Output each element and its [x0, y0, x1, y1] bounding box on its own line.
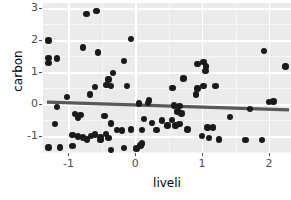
data-point: [178, 110, 184, 116]
y-tick-mark: [39, 40, 42, 41]
data-point: [270, 98, 276, 104]
regression-line: [43, 3, 291, 153]
data-point: [75, 115, 81, 121]
data-point: [164, 122, 170, 128]
data-point: [57, 144, 63, 150]
y-tick-label: 2: [20, 34, 38, 45]
x-axis-title: liveli: [43, 176, 291, 190]
data-point: [139, 140, 145, 146]
data-point: [80, 44, 86, 50]
x-tick-mark: [68, 153, 69, 156]
data-point: [45, 144, 51, 150]
data-point: [212, 83, 218, 89]
x-tick-label: 0: [123, 158, 147, 169]
data-point: [128, 126, 134, 132]
x-tick-label: 2: [257, 158, 281, 169]
data-point: [184, 126, 190, 132]
plot-panel: [43, 3, 291, 153]
data-point: [216, 136, 222, 142]
x-tick-label: 1: [190, 158, 214, 169]
x-tick-mark: [202, 153, 203, 156]
y-tick-label: 1: [20, 66, 38, 77]
y-tick-mark: [39, 72, 42, 73]
data-point: [210, 124, 216, 130]
y-tick-mark: [39, 8, 42, 9]
scatter-plot-figure: carbon liveli -10123 -1012: [0, 0, 291, 200]
data-point: [95, 49, 101, 55]
data-point: [93, 8, 99, 14]
y-tick-mark: [39, 104, 42, 105]
x-tick-mark: [135, 153, 136, 156]
y-tick-label: 0: [20, 98, 38, 109]
data-point: [119, 127, 125, 133]
y-axis-tick-labels: -10123: [18, 0, 38, 200]
data-point: [121, 145, 127, 151]
data-point: [282, 63, 288, 69]
data-point: [200, 83, 206, 89]
data-point: [180, 75, 186, 81]
data-point: [193, 91, 199, 97]
data-point: [202, 68, 208, 74]
data-point: [83, 11, 89, 17]
y-tick-label: 3: [20, 2, 38, 13]
x-tick-mark: [269, 153, 270, 156]
y-tick-label: -1: [20, 130, 38, 141]
data-point: [45, 37, 51, 43]
data-point: [45, 60, 51, 66]
data-point: [153, 127, 159, 133]
data-point: [69, 143, 75, 149]
data-point: [54, 55, 60, 61]
y-tick-mark: [39, 136, 42, 137]
x-tick-label: -1: [56, 158, 80, 169]
data-point: [97, 137, 103, 143]
data-point: [141, 116, 147, 122]
data-point: [87, 91, 93, 97]
data-point: [101, 113, 107, 119]
data-point: [176, 121, 182, 127]
data-point: [84, 136, 90, 142]
data-point: [169, 85, 175, 91]
data-point: [136, 100, 142, 106]
data-point: [121, 58, 127, 64]
